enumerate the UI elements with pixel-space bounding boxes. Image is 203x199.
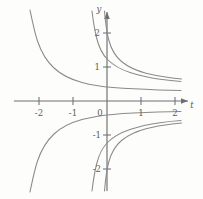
y-tick-label-plus1: 1 bbox=[95, 62, 100, 72]
curve-branch-upper-right-C3 bbox=[105, 11, 182, 79]
y-tick-label-plus2: 2 bbox=[95, 28, 100, 38]
x-tick-label-plus2: 2 bbox=[172, 108, 177, 118]
x-tick-label-zero: 0 bbox=[97, 108, 102, 118]
plot-canvas: -2 -1 0 1 2 2 1 -1 -2 t y bbox=[0, 0, 203, 199]
slope-field-solution-curves-figure: -2 -1 0 1 2 2 1 -1 -2 t y bbox=[0, 0, 203, 199]
axis-name-label-group: t y bbox=[96, 4, 195, 110]
axis-group bbox=[14, 12, 188, 191]
y-tick-label-minus1: -1 bbox=[93, 130, 101, 140]
x-tick-label-minus1: -1 bbox=[69, 108, 77, 118]
y-axis-label: y bbox=[96, 4, 102, 14]
x-axis-arrow-icon bbox=[181, 98, 188, 104]
x-tick-label-plus1: 1 bbox=[138, 108, 143, 118]
curve-branch-lower-right-C6 bbox=[105, 123, 182, 191]
x-tick-label-minus2: -2 bbox=[35, 108, 43, 118]
x-axis-label: t bbox=[190, 100, 194, 110]
y-tick-label-minus2: -2 bbox=[93, 164, 101, 174]
